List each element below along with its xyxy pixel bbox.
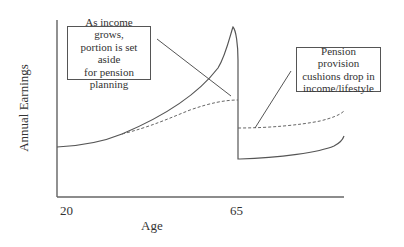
x-axis-label: Age [141, 218, 163, 234]
x-tick-65: 65 [230, 203, 243, 219]
callout-saving: As income grows, portion is set aside fo… [67, 26, 151, 80]
lifestyle-curve-pre-retirement [122, 100, 238, 134]
x-tick-20: 20 [60, 203, 73, 219]
callout-cushion: Pension provision cushions drop in incom… [296, 47, 381, 92]
callout-pointer-saving [157, 39, 231, 96]
lifestyle-curve-post-retirement [238, 111, 344, 128]
callout-saving-text: As income grows, portion is set aside fo… [71, 16, 147, 91]
callout-cushion-text: Pension provision cushions drop in incom… [300, 45, 377, 95]
y-axis-label: Annual Earnings [16, 64, 32, 152]
callout-pointer-cushion [255, 71, 291, 128]
